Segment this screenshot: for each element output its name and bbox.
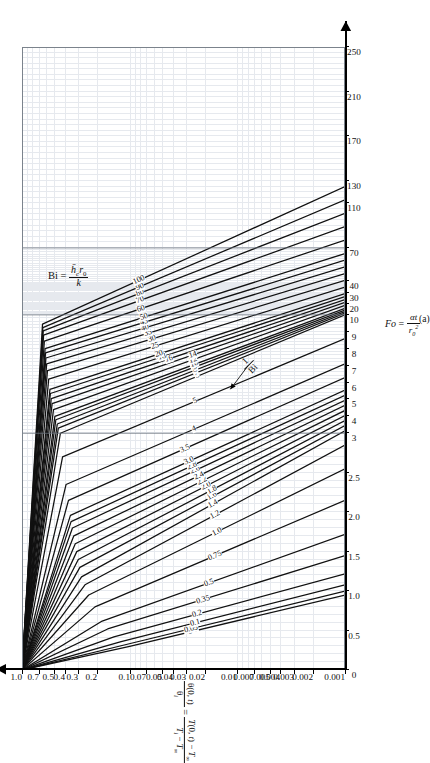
grid-line-vertical bbox=[22, 392, 345, 393]
grid-line-vertical bbox=[22, 519, 345, 520]
y-axis-title-lhs-denominator: θi bbox=[172, 681, 184, 707]
grid-line-vertical bbox=[22, 511, 345, 512]
grid-line-vertical bbox=[22, 582, 345, 583]
x-tick-label: 0 bbox=[352, 670, 357, 680]
y-tick-label: 0.002 bbox=[292, 672, 313, 682]
grid-line-vertical bbox=[22, 645, 345, 646]
x-axis-title-equals: = bbox=[399, 318, 405, 329]
grid-line-vertical bbox=[22, 371, 345, 372]
grid-line-vertical bbox=[22, 191, 345, 192]
x-tick-label: 30 bbox=[349, 293, 358, 303]
grid-line-vertical bbox=[22, 292, 345, 293]
grid-line-vertical bbox=[22, 91, 345, 92]
grid-line-vertical bbox=[22, 57, 345, 58]
y-tick-label: 0.001 bbox=[324, 672, 345, 682]
grid-line-vertical bbox=[22, 309, 345, 310]
grid-line-vertical bbox=[22, 304, 345, 305]
grid-line-vertical bbox=[22, 551, 345, 552]
grid-line-vertical bbox=[22, 472, 345, 473]
grid-line-vertical bbox=[22, 247, 345, 248]
biot-denominator: k bbox=[69, 277, 88, 289]
grid-line-vertical bbox=[22, 432, 345, 433]
x-tick-label: 8 bbox=[352, 349, 357, 359]
grid-line-vertical bbox=[22, 574, 345, 575]
grid-line-vertical bbox=[22, 321, 345, 322]
grid-line-vertical bbox=[22, 426, 345, 427]
grid-line-vertical bbox=[22, 440, 345, 441]
grid-line-vertical bbox=[22, 68, 345, 69]
grid-line-vertical bbox=[22, 590, 345, 591]
grid-line-vertical bbox=[22, 213, 345, 214]
grid-line-vertical bbox=[22, 158, 345, 159]
grid-line-vertical bbox=[22, 488, 345, 489]
x-tick-label: 9 bbox=[352, 332, 357, 342]
x-tick-mark bbox=[345, 314, 349, 315]
grid-line-vertical bbox=[22, 341, 345, 342]
grid-line-vertical bbox=[22, 251, 345, 252]
y-axis-title-equals: = bbox=[179, 709, 190, 715]
y-tick-label: 0.7 bbox=[27, 672, 38, 682]
y-axis-title-rhs-denominator: Ti − T∞ bbox=[172, 717, 184, 762]
grid-line-horizontal bbox=[39, 47, 40, 670]
x-tick-label: 2.0 bbox=[348, 512, 359, 522]
grid-line-vertical bbox=[22, 186, 345, 187]
x-tick-label: 5 bbox=[352, 399, 357, 409]
x-tick-mark bbox=[345, 432, 349, 433]
grid-line-vertical bbox=[22, 395, 345, 396]
x-tick-label: 1.5 bbox=[348, 552, 359, 562]
grid-line-vertical bbox=[22, 107, 345, 108]
x-tick-mark bbox=[345, 202, 349, 203]
grid-line-horizontal bbox=[146, 47, 147, 670]
curve-label: 0.1 bbox=[189, 617, 202, 628]
grid-line-vertical bbox=[22, 314, 345, 315]
grid-line-vertical bbox=[22, 219, 345, 220]
grid-line-vertical bbox=[22, 96, 345, 97]
grid-line-vertical bbox=[22, 324, 345, 325]
y-axis-title-lhs: θ(0, t) θi bbox=[172, 681, 194, 707]
grid-line-horizontal bbox=[294, 47, 295, 670]
y-tick-mark bbox=[22, 670, 23, 674]
y-tick-mark bbox=[313, 670, 314, 674]
grid-line-horizontal bbox=[32, 47, 33, 670]
grid-line-vertical bbox=[22, 163, 345, 164]
curve-label: 0.35 bbox=[194, 593, 211, 605]
grid-line-vertical bbox=[22, 354, 345, 355]
x-tick-label: 250 bbox=[347, 47, 361, 57]
x-tick-mark bbox=[345, 551, 349, 552]
grid-line-horizontal bbox=[97, 47, 98, 670]
grid-line-vertical bbox=[22, 606, 345, 607]
y-tick-mark bbox=[345, 670, 346, 674]
grid-line-vertical bbox=[22, 180, 345, 181]
grid-line-vertical bbox=[22, 358, 345, 359]
x-tick-label: 7 bbox=[352, 366, 357, 376]
grid-line-vertical bbox=[22, 385, 345, 386]
curve-30 bbox=[22, 280, 345, 670]
grid-line-vertical bbox=[22, 202, 345, 203]
grid-line-vertical bbox=[22, 80, 345, 81]
grid-line-vertical bbox=[22, 260, 345, 261]
grid-line-vertical bbox=[22, 388, 345, 389]
curve-0p5 bbox=[22, 534, 345, 670]
x-tick-label: 20 bbox=[349, 304, 358, 314]
grid-line-vertical bbox=[22, 622, 345, 623]
grid-line-vertical bbox=[22, 74, 345, 75]
grid-line-vertical bbox=[22, 378, 345, 379]
grid-line-vertical bbox=[22, 661, 345, 662]
grid-line-vertical bbox=[22, 308, 345, 309]
y-axis-title-rhs-numerator: T(0, t) − T∞ bbox=[184, 717, 195, 762]
x-tick-mark bbox=[345, 382, 349, 383]
y-tick-mark bbox=[186, 670, 187, 674]
x-tick-mark bbox=[345, 630, 349, 631]
x-tick-mark bbox=[345, 472, 349, 473]
grid-line-vertical bbox=[22, 527, 345, 528]
grid-line-vertical bbox=[22, 197, 345, 198]
grid-line-vertical bbox=[22, 566, 345, 567]
grid-line-horizontal bbox=[65, 47, 66, 670]
grid-line-horizontal bbox=[237, 47, 238, 670]
grid-line-vertical bbox=[22, 348, 345, 349]
grid-line-horizontal bbox=[270, 47, 271, 670]
y-tick-label: 0.2 bbox=[86, 672, 97, 682]
x-tick-label: 1.0 bbox=[348, 591, 359, 601]
grid-line-vertical bbox=[22, 52, 345, 53]
